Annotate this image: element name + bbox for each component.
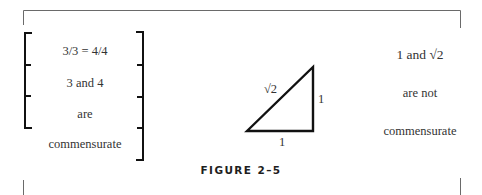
right-line-1: 1 and √2 bbox=[370, 47, 470, 63]
base-label: 1 bbox=[279, 135, 285, 150]
hypotenuse-label: √2 bbox=[264, 82, 277, 97]
right-line-2: are not bbox=[370, 86, 470, 101]
right-line-3: commensurate bbox=[370, 124, 470, 139]
figure-caption: FIGURE 2–5 bbox=[191, 164, 291, 176]
vertical-side-label: 1 bbox=[318, 92, 324, 107]
left-row-4: commensurate bbox=[36, 137, 134, 152]
left-row-2: 3 and 4 bbox=[40, 76, 130, 91]
left-row-3: are bbox=[40, 107, 130, 122]
right-bracket bbox=[136, 32, 144, 160]
left-bracket bbox=[24, 33, 32, 128]
left-row-1: 3/3 = 4/4 bbox=[40, 44, 130, 59]
right-triangle bbox=[247, 67, 313, 131]
